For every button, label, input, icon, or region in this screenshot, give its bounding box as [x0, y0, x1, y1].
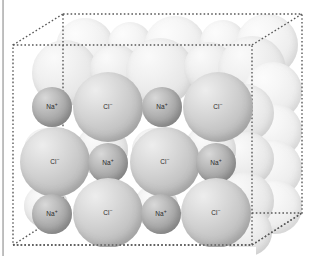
- ion-chloride: Cl−: [183, 72, 253, 142]
- ion-label: Cl−: [211, 209, 220, 216]
- ion-sodium: Na+: [88, 143, 128, 183]
- ion-label: Na+: [46, 103, 58, 110]
- ion-chloride: Cl−: [20, 127, 90, 197]
- ion-sodium: Na+: [32, 194, 72, 234]
- crystal-stage: Cl− Cl− Na+ Na+ Cl−: [0, 0, 318, 256]
- ion-chloride: Cl−: [73, 178, 143, 248]
- ion-sodium: Na+: [32, 87, 72, 127]
- ion-sodium: Na+: [142, 87, 182, 127]
- ion-label: Cl−: [50, 158, 59, 165]
- ion-label: Na+: [210, 159, 222, 166]
- ion-sodium: Na+: [141, 194, 181, 234]
- bottom-clip-mask: [6, 247, 256, 256]
- ion-label: Cl−: [103, 209, 112, 216]
- ion-label: Cl−: [213, 103, 222, 110]
- ion-sodium: Na+: [196, 143, 236, 183]
- ion-chloride: Cl−: [181, 178, 251, 248]
- nacl-crystal-figure: Cl− Cl− Na+ Na+ Cl−: [0, 0, 318, 256]
- ion-chloride: Cl−: [73, 72, 143, 142]
- ion-label: Cl−: [103, 103, 112, 110]
- ion-label: Cl−: [160, 158, 169, 165]
- ion-label: Na+: [156, 103, 168, 110]
- ion-label: Na+: [46, 210, 58, 217]
- ion-label: Na+: [155, 210, 167, 217]
- ion-label: Na+: [102, 159, 114, 166]
- ion-chloride: Cl−: [130, 127, 200, 197]
